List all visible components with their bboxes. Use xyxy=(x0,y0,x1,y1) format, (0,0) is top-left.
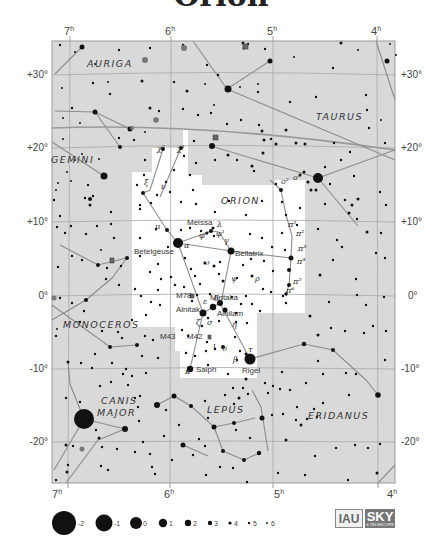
legend-dot-0 xyxy=(130,517,142,529)
constellation-name: AURIGA xyxy=(86,58,133,69)
dec-label: +10° xyxy=(401,216,422,227)
bayer-label: o² xyxy=(281,177,289,186)
ra-label: 6h xyxy=(164,488,174,500)
bayer-label: χ² xyxy=(156,144,165,153)
star-name: Meissa xyxy=(187,218,213,227)
dec-labels-right: +30° +20° +10° 0° -10° -20° xyxy=(401,69,422,447)
legend-magnitude-label: -2 xyxy=(78,520,84,527)
constellation-name: CANIS xyxy=(101,395,138,406)
constellation-name: LEPUS xyxy=(207,404,245,415)
legend-dot-4 xyxy=(228,521,231,524)
dec-label: -10° xyxy=(30,363,48,374)
dec-label: +20° xyxy=(401,142,422,153)
ra-label: 4h xyxy=(371,25,381,37)
ra-label: 4h xyxy=(387,488,397,500)
star-sirius xyxy=(74,409,94,429)
legend-magnitude-label: 3 xyxy=(214,520,218,527)
dec-label: 0° xyxy=(38,290,48,301)
ra-labels-top: 7h 6h 5h 4h xyxy=(64,25,381,37)
ra-label: 6h xyxy=(165,25,175,37)
dec-labels-left: +30° +20° +10° 0° -10° -20° xyxy=(27,69,48,447)
legend-magnitude-label: 0 xyxy=(143,520,147,527)
legend-dot-m2 xyxy=(52,511,76,535)
legend-magnitude-label: 2 xyxy=(193,520,197,527)
star-name: Rigel xyxy=(242,366,260,375)
star-aldebaran xyxy=(313,173,323,183)
sky-logo-text: SKY xyxy=(367,511,394,523)
star-alnilam xyxy=(210,304,216,310)
bayer-label: o¹ xyxy=(293,173,301,182)
bayer-label: ρ xyxy=(254,274,260,283)
ra-label: 5h xyxy=(274,488,284,500)
constellation-name: TAURUS xyxy=(316,111,363,122)
bayer-label: ζ xyxy=(196,318,201,327)
bayer-label: κ xyxy=(184,367,191,376)
bayer-label: μ xyxy=(155,222,160,231)
magnitude-legend: -2-10123456 xyxy=(50,505,290,541)
ra-label: 5h xyxy=(267,25,277,37)
bayer-label: α xyxy=(184,241,190,250)
star-name: M43 xyxy=(160,332,176,341)
star-name: Betelgeuse xyxy=(134,247,175,256)
star-name: Alnitak xyxy=(176,305,201,314)
legend-dot-1 xyxy=(159,519,167,527)
bayer-label: ε xyxy=(203,297,207,306)
constellation-name: ORION xyxy=(221,195,260,206)
bayer-label: γ xyxy=(224,236,229,245)
iau-logo: IAU xyxy=(335,509,363,528)
star-name: M42 xyxy=(187,332,203,341)
star-name: Saiph xyxy=(196,365,216,374)
bayer-label: ι xyxy=(213,341,216,350)
star-name: M78 xyxy=(176,291,192,300)
ra-label: 7h xyxy=(64,25,74,37)
bayer-label: π⁴ xyxy=(296,257,305,266)
dec-label: +30° xyxy=(401,69,422,80)
dec-label: -20° xyxy=(401,436,419,447)
constellation-name: GEMINI xyxy=(51,154,94,165)
bayer-label: π¹ xyxy=(287,220,296,229)
dec-label: 0° xyxy=(408,290,418,301)
legend-magnitude-label: -1 xyxy=(114,520,120,527)
publisher-logos: IAU SKY & TELESCOPE xyxy=(335,509,395,528)
star-name: Alnilam xyxy=(217,309,244,318)
ra-labels-bottom: 7h 6h 5h 4h xyxy=(52,488,397,500)
dec-label: -10° xyxy=(401,363,419,374)
dec-label: -20° xyxy=(30,436,48,447)
bayer-label: χ¹ xyxy=(176,144,185,153)
bayer-label: ν xyxy=(161,182,166,191)
star-chart: 7h 6h 5h 4h 7h 6h 5h 4h +30° +20° +10° 0… xyxy=(0,0,442,552)
constellation-name: MAJOR xyxy=(97,407,136,418)
legend-magnitude-label: 6 xyxy=(271,520,275,527)
star-name: Bellatrix xyxy=(235,249,263,258)
constellation-name: MONOCEROS xyxy=(63,319,140,330)
bayer-label: π³ xyxy=(297,244,306,253)
bayer-label: η xyxy=(232,320,237,329)
bayer-label: π² xyxy=(295,229,304,238)
bayer-label: π⁵ xyxy=(292,277,302,286)
bayer-label: β xyxy=(232,355,238,364)
legend-magnitude-label: 5 xyxy=(253,520,257,527)
legend-dot-5 xyxy=(248,522,250,524)
legend-dot-2 xyxy=(185,520,191,526)
bayer-label: ω xyxy=(203,258,210,267)
sky-telescope-logo: SKY & TELESCOPE xyxy=(365,509,395,528)
m42-marker xyxy=(208,335,211,339)
bayer-label: ξ xyxy=(144,178,149,187)
ra-label: 7h xyxy=(52,488,62,500)
legend-magnitude-label: 1 xyxy=(169,520,173,527)
bayer-label: υ xyxy=(222,344,227,353)
bayer-label: λ xyxy=(216,220,222,229)
sky-logo-subtext: & TELESCOPE xyxy=(366,523,394,527)
legend-dot-3 xyxy=(208,521,212,525)
bayer-label: π⁶ xyxy=(285,286,295,295)
legend-dot-6 xyxy=(266,522,268,524)
legend-magnitude-label: 4 xyxy=(234,520,238,527)
legend-dot-m1 xyxy=(96,515,113,532)
dec-label: +20° xyxy=(27,142,48,153)
bayer-label: σ xyxy=(207,318,213,327)
dec-label: +30° xyxy=(27,69,48,80)
bayer-label: δ xyxy=(214,294,219,303)
dec-label: +10° xyxy=(27,216,48,227)
bayer-label: ψ xyxy=(231,274,238,283)
bayer-label: φ² xyxy=(199,231,208,240)
